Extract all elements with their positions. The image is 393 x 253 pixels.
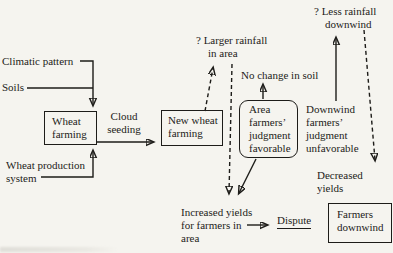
label-increased-yields: Increased yields for farmers in area — [181, 206, 252, 245]
label-line: ? Larger rainfall — [196, 34, 267, 47]
node-label-line: farmers’ — [249, 116, 297, 129]
dashed-arrow-newwheat-to-larger-rainfall — [205, 68, 213, 111]
node-label-line: Wheat — [52, 115, 96, 128]
label-line: system — [6, 172, 85, 185]
label-line: area — [181, 232, 252, 245]
label-line: Decreased — [317, 169, 363, 182]
node-new-wheat-farming: New wheat farming — [161, 110, 223, 146]
node-wheat-farming: Wheat farming — [44, 111, 97, 145]
label-wheat-production-system: Wheat production system — [6, 159, 85, 185]
dashed-arrow-rainfall-to-increased-yields — [229, 64, 232, 193]
label-line: seeding — [100, 123, 148, 136]
label-decreased-yields: Decreased yields — [317, 169, 363, 195]
label-line: in area — [208, 47, 267, 60]
label-line: Dispute — [277, 214, 311, 229]
label-line: yields — [317, 182, 363, 195]
node-label-line: favorable — [249, 142, 297, 155]
node-farmers-downwind: Farmers downwind — [328, 203, 392, 243]
arrow-area-farmers-to-increased-yields — [239, 159, 256, 193]
node-label-line: New wheat — [168, 114, 222, 127]
label-larger-rainfall: ? Larger rainfall in area — [196, 34, 267, 60]
label-line: Increased yields — [181, 206, 252, 219]
arrow-climatic-to-wheat-farming — [80, 61, 93, 105]
node-label-line: Area — [249, 103, 297, 116]
diagram-canvas: Climatic pattern Soils Wheat production … — [0, 0, 393, 253]
node-label-line: farming — [52, 128, 96, 141]
label-less-rainfall: ? Less rainfall downwind — [314, 5, 376, 31]
label-line: downwind — [325, 18, 376, 31]
label-line: unfavorable — [306, 142, 359, 155]
label-dispute: Dispute — [277, 214, 311, 229]
label-downwind-judgment: Downwind farmers’ judgment unfavorable — [306, 103, 359, 155]
label-line: for farmers in — [181, 219, 252, 232]
label-line: Cloud — [100, 110, 148, 123]
label-no-change-in-soil: No change in soil — [241, 69, 318, 82]
node-label-line: judgment — [249, 129, 297, 142]
label-soils: Soils — [2, 81, 24, 94]
label-cloud-seeding: Cloud seeding — [100, 110, 148, 136]
label-line: farmers’ — [306, 116, 359, 129]
node-label-line: farming — [168, 127, 222, 140]
label-line: Wheat production — [6, 159, 85, 172]
label-climatic-pattern: Climatic pattern — [2, 55, 73, 68]
dashed-arrow-less-rainfall-to-decreased-yields — [364, 30, 375, 160]
label-line: Downwind — [306, 103, 359, 116]
label-line: ? Less rainfall — [314, 5, 376, 18]
label-line: judgment — [306, 129, 359, 142]
node-area-farmers-judgment: Area farmers’ judgment favorable — [239, 100, 298, 158]
scan-artifact-caption-edge — [0, 247, 118, 252]
node-label-line: Farmers — [337, 208, 391, 221]
node-label-line: downwind — [337, 221, 391, 234]
